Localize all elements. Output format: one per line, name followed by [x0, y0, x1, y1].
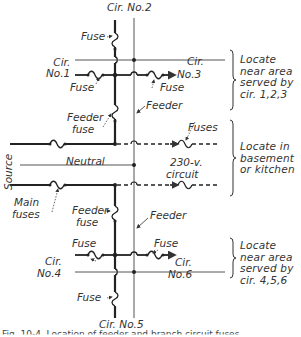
brace-group	[230, 50, 236, 278]
feeder-top-label: Feeder	[146, 100, 182, 111]
neutral-label: Neutral	[66, 156, 105, 167]
dashed-230v-bottom	[117, 181, 220, 189]
dashed-230v-top	[117, 140, 220, 148]
main-hot-line-top	[10, 136, 115, 148]
note-circuits-4-5-6: Locate near area served by cir. 4,5,6	[240, 240, 294, 286]
fuses-230-label: Fuses	[188, 122, 218, 133]
hot-branch-4-6	[75, 251, 175, 259]
circuit-230v-label-a: 230-v.	[170, 157, 203, 168]
circuit-3-label-b: No.3	[177, 69, 201, 80]
fuse-c6-label: Fuse	[154, 238, 178, 249]
fuse-c5-label: Fuse	[77, 292, 101, 303]
fuse-c4-label: Fuse	[72, 238, 96, 249]
hot-branch-1-3	[75, 71, 175, 79]
circuit-6-label-b: No.6	[168, 269, 192, 280]
circuit-4-label-b: No.4	[37, 268, 61, 279]
feeder-fuse-top-label-b: fuse	[72, 124, 94, 135]
note-circuits-1-2-3: Locate near area served by cir. 1,2,3	[240, 54, 294, 100]
fuse-c1-label: Fuse	[70, 82, 94, 93]
circuit-6-label-a: Cir.	[175, 257, 192, 268]
circuit-1-label: Cir. No.1	[46, 57, 70, 79]
circuit-2-label: Cir. No.2	[107, 2, 152, 13]
feeder-fuse-bottom-label-a: Feeder	[72, 205, 108, 216]
source-label: Source	[3, 154, 14, 190]
feeder-fuse-bottom-label-b: fuse	[76, 217, 98, 228]
hot-feeder-top	[112, 20, 118, 144]
circuit-5-label: Cir. No.5	[99, 319, 144, 330]
main-fuses-label-b: fuses	[12, 209, 40, 220]
circuit-230v-label-b: circuit	[166, 169, 198, 180]
circuit-3-label-a: Cir.	[187, 56, 204, 67]
main-hot-line-bottom	[10, 181, 115, 189]
feeder-bottom-label: Feeder	[150, 210, 186, 221]
circuit-4-label-a: Cir.	[45, 256, 62, 267]
feeder-fuse-top-label-a: Feeder	[67, 112, 103, 123]
main-fuses-label-a: Main	[14, 197, 39, 208]
hot-feeder-bottom	[112, 185, 118, 318]
note-230v-location: Locate in basement or kitchen	[240, 141, 295, 176]
fuse-c3-label: Fuse	[160, 82, 184, 93]
fuse-c2-label: Fuse	[81, 31, 105, 42]
